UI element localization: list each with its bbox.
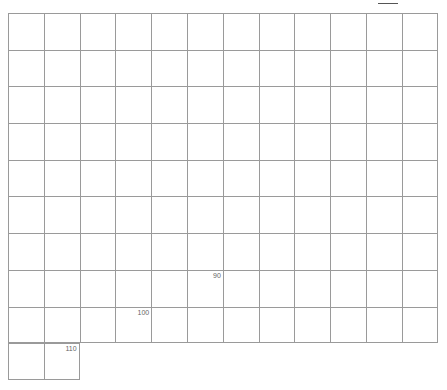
grid-cell (223, 233, 259, 270)
grid-cell (223, 50, 259, 87)
grid-row (8, 160, 438, 197)
grid-cell (187, 307, 223, 344)
grid-cell (402, 270, 438, 307)
grid-label: 100 (138, 309, 150, 316)
grid-cell (259, 50, 295, 87)
grid-cell (115, 196, 151, 233)
grid-cell (8, 270, 44, 307)
grid-cell (8, 196, 44, 233)
grid-cell (115, 86, 151, 123)
grid-cell (259, 86, 295, 123)
grid-cell (223, 160, 259, 197)
grid-cell (80, 307, 116, 344)
grid-cell (151, 307, 187, 344)
grid-cell (187, 233, 223, 270)
grid-cell (8, 233, 44, 270)
grid-cell (366, 13, 402, 50)
grid-cell (402, 50, 438, 87)
grid-cell (44, 50, 80, 87)
grid-row (8, 233, 438, 270)
grid-cell (366, 50, 402, 87)
grid-cell (402, 123, 438, 160)
grid-cell (44, 233, 80, 270)
grid-cell (366, 233, 402, 270)
grid-cell (151, 13, 187, 50)
grid-cell: 110 (44, 343, 80, 380)
grid-cell (223, 196, 259, 233)
grid-cell (330, 123, 366, 160)
grid-cell (115, 233, 151, 270)
grid-cell (294, 233, 330, 270)
grid-cell (151, 270, 187, 307)
grid-row (8, 86, 438, 123)
grid-cell (80, 50, 116, 87)
grid-cell (330, 270, 366, 307)
grid-cell (80, 86, 116, 123)
grid-cell (8, 307, 44, 344)
grid-row (8, 50, 438, 87)
grid-cell (366, 160, 402, 197)
grid-cell (294, 160, 330, 197)
grid-label: 110 (65, 345, 76, 352)
grid-cell (330, 160, 366, 197)
grid-cell (366, 270, 402, 307)
grid-cell (402, 13, 438, 50)
grid-cell (330, 307, 366, 344)
grid-cell (187, 123, 223, 160)
grid-cell (223, 270, 259, 307)
grid-row: 110 (8, 343, 438, 380)
grid-cell (80, 123, 116, 160)
grid-cell (223, 13, 259, 50)
grid-cell (330, 50, 366, 87)
grid-cell (80, 196, 116, 233)
grid-cell (294, 86, 330, 123)
grid-row (8, 13, 438, 50)
grid-cell (223, 86, 259, 123)
grid-cell (366, 123, 402, 160)
grid-cell (115, 123, 151, 160)
grid-cell (402, 307, 438, 344)
grid-cell (151, 160, 187, 197)
grid-cell (115, 13, 151, 50)
grid-cell (330, 13, 366, 50)
grid-cell (259, 13, 295, 50)
grid-cell (8, 86, 44, 123)
grid-row (8, 196, 438, 233)
grid-cell (366, 196, 402, 233)
grid-cell (187, 50, 223, 87)
grid-cell (115, 270, 151, 307)
grid-cell (80, 233, 116, 270)
grid-cell (294, 307, 330, 344)
grid-cell (294, 270, 330, 307)
grid-cell: 90 (187, 270, 223, 307)
grid-cell (8, 50, 44, 87)
grid-cell (8, 123, 44, 160)
grid-cell (115, 50, 151, 87)
grid-cell (330, 233, 366, 270)
grid-cell (402, 196, 438, 233)
grid-cell (80, 13, 116, 50)
grid-cell (115, 160, 151, 197)
grid-cell (259, 196, 295, 233)
grid-cell (151, 86, 187, 123)
grid-cell (259, 233, 295, 270)
grid-cell (402, 86, 438, 123)
grid-cell (80, 270, 116, 307)
grid-cell (223, 307, 259, 344)
grid-cell (259, 270, 295, 307)
grid-cell (44, 13, 80, 50)
grid-cell (151, 123, 187, 160)
grid-cell (80, 160, 116, 197)
grid-cell (44, 307, 80, 344)
grid-cell: 100 (115, 307, 151, 344)
grid-cell (259, 160, 295, 197)
grid-cell (294, 123, 330, 160)
grid-cell (366, 86, 402, 123)
grid-cell (330, 86, 366, 123)
grid-cell (294, 196, 330, 233)
grid-cell (366, 307, 402, 344)
grid-cell (44, 123, 80, 160)
grid-cell (294, 13, 330, 50)
grid-cell (223, 123, 259, 160)
grid-row (8, 123, 438, 160)
